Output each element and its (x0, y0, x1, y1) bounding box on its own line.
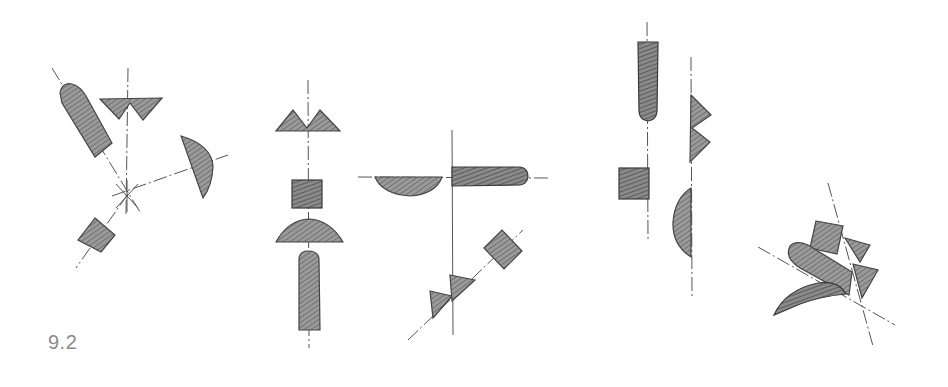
double-triangle-shape (690, 95, 711, 162)
figure-illustration: 9.2 (0, 0, 948, 387)
group-cross-axes (358, 130, 548, 340)
group-overlapping-cluster (758, 183, 895, 346)
rounded-bar-shape (60, 84, 112, 157)
half-disc-shape (375, 177, 442, 196)
half-disc-shape (673, 188, 691, 257)
square-shape (78, 218, 115, 252)
double-triangle-shape (100, 98, 162, 120)
group-radial (52, 68, 228, 268)
triangle-shape (853, 264, 878, 298)
half-disc-shape (181, 136, 213, 198)
triangle-shape (450, 275, 475, 301)
square-shape (619, 168, 649, 199)
rounded-bar-shape (452, 167, 528, 186)
group-parallel-axes (619, 22, 711, 296)
leaf-shape (774, 282, 846, 315)
half-disc-shape (276, 219, 343, 242)
triangle-shape (430, 291, 452, 318)
rounded-bar-shape (638, 42, 658, 121)
center-star-icon (116, 180, 138, 212)
figure-number-label: 9.2 (48, 331, 77, 354)
square-shape (292, 180, 322, 208)
rounded-bar-shape (299, 251, 320, 330)
group-vertical-axis (276, 80, 343, 348)
axis-vertical-3 (452, 130, 453, 335)
axis-vertical-4b (691, 57, 692, 296)
